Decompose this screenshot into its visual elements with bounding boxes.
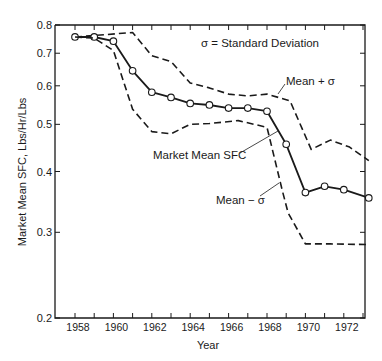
series-line-mean-	[75, 33, 369, 161]
x-axis-label: Year	[197, 339, 220, 351]
data-point-marker	[149, 89, 156, 96]
y-tick-label: 0.6	[37, 80, 52, 92]
data-point-marker	[302, 189, 309, 196]
y-tick-label: 0.7	[37, 47, 52, 59]
series-line-mean-	[75, 37, 369, 245]
data-point-marker	[283, 141, 290, 148]
y-tick-label: 0.3	[37, 226, 52, 238]
data-point-marker	[264, 108, 271, 115]
x-tick-label: 1958	[66, 321, 90, 333]
plot-frame	[55, 25, 365, 318]
data-point-marker	[91, 34, 98, 41]
x-tick-label: 1972	[335, 321, 359, 333]
series-lines	[72, 33, 372, 245]
data-point-marker	[168, 94, 175, 101]
data-point-marker	[206, 102, 213, 109]
x-tick-label: 1964	[182, 321, 206, 333]
mean-minus-leader	[260, 183, 279, 196]
mean-minus-label: Mean − σ	[216, 194, 265, 206]
mean-plus-label: Mean + σ	[286, 75, 335, 87]
data-point-marker	[129, 68, 136, 75]
tick-marks: 0.20.30.40.50.60.70.81958196019621964196…	[37, 19, 365, 333]
x-tick-label: 1960	[105, 321, 129, 333]
y-tick-label: 0.5	[37, 118, 52, 130]
y-tick-label: 0.4	[37, 166, 52, 178]
y-axis-label: Market Mean SFC, Lbs/Hr/Lbs	[16, 97, 28, 246]
x-tick-label: 1962	[143, 321, 167, 333]
data-point-marker	[321, 183, 328, 190]
x-tick-label: 1966	[220, 321, 244, 333]
sfc-chart: 0.20.30.40.50.60.70.81958196019621964196…	[0, 0, 382, 361]
y-tick-label: 0.8	[37, 19, 52, 31]
axes	[55, 25, 365, 318]
x-tick-label: 1968	[258, 321, 282, 333]
mean-label: Market Mean SFC	[153, 149, 246, 161]
data-point-marker	[245, 105, 252, 112]
y-tick-label: 0.2	[37, 312, 52, 324]
series-line-market-mean-sfc	[75, 37, 369, 198]
data-point-marker	[365, 195, 372, 202]
mean-leader	[240, 131, 278, 153]
data-point-marker	[225, 105, 232, 112]
x-tick-label: 1970	[297, 321, 321, 333]
mean-plus-leader	[278, 84, 285, 94]
data-point-marker	[110, 38, 117, 45]
data-point-marker	[341, 186, 348, 193]
sigma-note: σ = Standard Deviation	[201, 37, 319, 49]
data-point-marker	[187, 100, 194, 107]
